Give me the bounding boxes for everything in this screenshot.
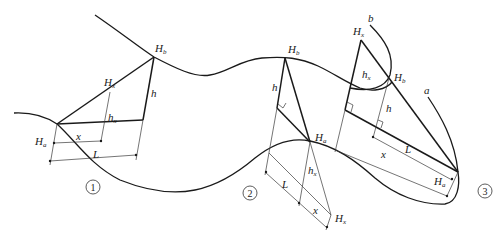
case2-left-ext [265,108,277,175]
upper-contour-curve [95,15,392,90]
case1-slope-line [57,57,154,124]
case2-hx-label: hx [308,164,318,178]
case2-h-line [277,58,285,108]
case1-ext-line [136,120,143,160]
contour-curve-a [428,97,458,172]
case3-hx-point-label: Hx [352,25,365,39]
case2-x-label: x [312,204,318,216]
case2-right-angle-icon [278,103,286,108]
case3-x-label: x [380,148,386,160]
case2-ha-label: Ha [314,131,327,145]
elevation-interpolation-diagram: Hb Hx h hx Ha x L 1 Hb h Ha hx L x Hx 2 [0,0,502,242]
case1-x-label: x [75,130,81,142]
case-3-construction [335,40,458,197]
lower-contour-curve [14,113,459,204]
case1-ha-label: Ha [34,135,47,149]
case1-h-label: h [151,87,157,99]
case1-left-ext [50,124,57,165]
case2-hb-label: Hb [287,43,300,57]
case2-h-label: h [272,81,278,93]
case3-h-label: h [386,102,392,114]
case2-L-x-dimension [265,172,326,227]
case1-base-line [57,120,143,124]
case1-hb-label: Hb [154,42,167,56]
case1-hx-point-label: Hx [103,76,116,90]
case3-b-label: b [368,12,374,24]
case1-number: 1 [91,182,96,193]
case3-right-angle-icon-2 [378,120,383,128]
case2-number: 2 [248,188,253,199]
case3-number: 3 [483,186,488,197]
case3-a-label: a [424,84,430,96]
case-1-construction [49,57,154,165]
case1-L-label: L [92,148,99,160]
case3-hx-label: hx [362,68,372,82]
case1-hx-label: hx [108,111,118,125]
case3-left-ext [335,110,345,152]
case2-hx-point-label: Hx [334,212,347,226]
case3-L-label: L [404,143,411,155]
case3-hb-label: Hb [393,71,406,85]
case2-L-label: L [281,178,288,190]
case3-hx-line [345,40,361,110]
case3-right-angle-icon-1 [347,102,353,112]
case3-ha-dimension [447,172,458,196]
case3-ha-label: Ha [433,175,446,189]
